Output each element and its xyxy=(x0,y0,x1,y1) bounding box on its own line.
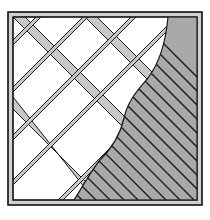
lattice-figure xyxy=(0,0,210,220)
